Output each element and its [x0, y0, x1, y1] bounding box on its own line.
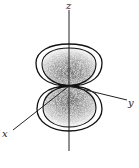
orbital-diagram: z y x: [0, 0, 139, 168]
z-axis-label: z: [65, 0, 72, 11]
y-axis-label: y: [127, 97, 134, 108]
x-axis-label: x: [2, 128, 8, 139]
orbital-svg: z y x: [0, 0, 139, 168]
figure-caption: [0, 162, 139, 168]
